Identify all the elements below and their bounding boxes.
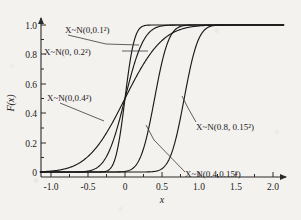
y-tick-label: 0.4 (25, 109, 37, 119)
annotation-n-0-04: X~N(0,0.4²) (47, 93, 92, 103)
chart-canvas: 1.0 0.8 0.6 0.4 0.2 0 -1.0 -0.5 0 0.5 1.… (0, 0, 301, 220)
x-tick-label: 1.0 (193, 182, 205, 192)
x-tick-label: 0 (123, 182, 128, 192)
curve-annotations: X~N(0,0.1²) X~N(0, 0.2²) X~N(0,0.4²) X~N… (44, 25, 254, 179)
annotation-n-0-02: X~N(0, 0.2²) (44, 47, 91, 57)
y-tick-label: 0.2 (25, 139, 37, 149)
y-tick-label: 0.8 (25, 50, 37, 60)
y-axis-label: F(x) (5, 94, 17, 113)
y-tick-label: 1.0 (25, 21, 37, 31)
x-tick-label: 1.5 (230, 182, 242, 192)
x-tick-label: 2.0 (267, 182, 279, 192)
leader-line-n-0-04 (60, 103, 104, 121)
annotation-n-04-015: X~N(0.4,0.15²) (185, 169, 241, 179)
leader-line-n-0-01 (68, 35, 139, 45)
y-tick-labels: 1.0 0.8 0.6 0.4 0.2 0 (25, 21, 37, 178)
annotation-n-08-015: X~N(0.8, 0.15²) (196, 122, 254, 132)
x-tick-label: 0.5 (156, 182, 168, 192)
x-tick-label: -1.0 (43, 182, 58, 192)
leader-line-n-08-015 (182, 96, 196, 122)
annotation-n-0-01: X~N(0,0.1²) (65, 25, 110, 35)
x-axis-label: x (159, 194, 165, 205)
y-tick-label: 0.6 (25, 80, 37, 90)
normal-cdf-figure: 1.0 0.8 0.6 0.4 0.2 0 -1.0 -0.5 0 0.5 1.… (0, 0, 301, 220)
x-tick-labels: -1.0 -0.5 0 0.5 1.0 1.5 2.0 (43, 182, 279, 192)
y-tick-label: 0 (32, 168, 37, 178)
x-tick-label: -0.5 (80, 182, 95, 192)
